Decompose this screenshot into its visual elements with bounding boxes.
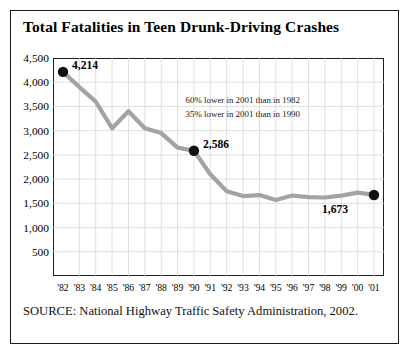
- figure-frame: Total Fatalities in Teen Drunk-Driving C…: [10, 10, 399, 344]
- x-axis-tick-label: '82: [57, 282, 68, 293]
- x-axis-tick-label: '91: [205, 282, 216, 293]
- y-axis-tick-label: 500: [9, 246, 49, 258]
- line-chart-svg: [53, 58, 384, 276]
- x-axis-tick-label: '88: [155, 282, 166, 293]
- source-note: SOURCE: National Highway Traffic Safety …: [23, 304, 393, 319]
- x-axis-tick-label: '93: [237, 282, 248, 293]
- x-axis-tick-label: '84: [90, 282, 101, 293]
- x-axis-tick-label: '92: [221, 282, 232, 293]
- y-axis-tick-label: 1,000: [9, 222, 49, 234]
- page-title: Total Fatalities in Teen Drunk-Driving C…: [23, 18, 383, 36]
- x-axis-tick-label: '01: [368, 282, 379, 293]
- x-axis-tick-label: '85: [106, 282, 117, 293]
- annotation-text: 60% lower in 2001 than in 1982 35% lower…: [186, 94, 300, 122]
- y-axis-tick-label: 3,500: [9, 100, 49, 112]
- annotation-line-2: 35% lower in 2001 than in 1990: [186, 108, 300, 122]
- y-axis-tick-label: 3,000: [9, 125, 49, 137]
- x-axis-tick-label: '98: [319, 282, 330, 293]
- data-point-label: 2,586: [203, 138, 229, 151]
- y-axis-tick-label: 4,500: [9, 52, 49, 64]
- x-axis-tick-label: '89: [172, 282, 183, 293]
- x-axis-tick-label: '87: [139, 282, 150, 293]
- data-point-label: 4,214: [72, 59, 98, 72]
- x-axis-tick-label: '99: [336, 282, 347, 293]
- x-axis-tick-label: '90: [188, 282, 199, 293]
- y-axis-tick-label: 2,000: [9, 173, 49, 185]
- x-axis-tick-label: '95: [270, 282, 281, 293]
- x-axis-tick-label: '00: [352, 282, 363, 293]
- y-axis-tick-label: 1,500: [9, 197, 49, 209]
- x-axis-tick-label: '86: [123, 282, 134, 293]
- x-axis-tick-label: '83: [74, 282, 85, 293]
- annotation-line-1: 60% lower in 2001 than in 1982: [186, 94, 300, 108]
- data-point-label: 1,673: [322, 203, 348, 216]
- y-axis-tick-label: 2,500: [9, 149, 49, 161]
- x-axis-tick-label: '97: [303, 282, 314, 293]
- x-axis-tick-label: '94: [254, 282, 265, 293]
- plot-area: [53, 58, 384, 276]
- y-axis-tick-label: 4,000: [9, 76, 49, 88]
- x-axis-tick-label: '96: [286, 282, 297, 293]
